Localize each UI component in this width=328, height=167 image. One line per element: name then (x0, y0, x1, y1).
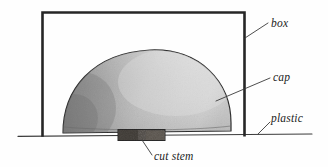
label-box: box (271, 17, 289, 29)
label-plastic: plastic (270, 112, 303, 125)
label-cut-stem: cut stem (154, 150, 194, 162)
leader-line-box (245, 23, 268, 38)
leader-line-cut-stem (142, 140, 152, 155)
leader-line-plastic (258, 122, 270, 134)
label-cap: cap (273, 71, 290, 84)
spore-print-diagram: box cap plastic cut stem (0, 0, 328, 167)
cut-stem-block (118, 130, 165, 141)
figure-container: box cap plastic cut stem (0, 0, 328, 167)
